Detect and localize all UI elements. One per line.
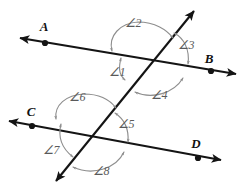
angle-label-1: ∠1	[109, 65, 126, 79]
angle-labels-group: ∠1 ∠2 ∠3 ∠4 ∠5 ∠6 ∠7 ∠8	[43, 16, 195, 178]
angle-label-2: ∠2	[125, 16, 142, 30]
point-label-d: D	[190, 136, 201, 151]
line-ab	[20, 38, 236, 74]
line-cd	[9, 121, 221, 160]
angle-label-4: ∠4	[151, 88, 168, 102]
angle-label-3: ∠3	[178, 38, 195, 52]
point-label-a: A	[39, 19, 49, 34]
point-label-c: C	[27, 104, 36, 119]
point-a-dot	[42, 40, 48, 46]
angle-label-7: ∠7	[43, 143, 61, 157]
angle-6-arc	[56, 94, 116, 119]
point-label-b: B	[204, 51, 214, 66]
geometry-figure: A B C D ∠1 ∠2 ∠3 ∠4 ∠5 ∠6 ∠7 ∠8	[0, 0, 239, 186]
point-d-dot	[195, 155, 201, 161]
angle-label-6: ∠6	[69, 90, 86, 104]
angle-label-5: ∠5	[118, 117, 135, 131]
point-b-dot	[208, 68, 214, 74]
angle-label-8: ∠8	[93, 164, 110, 178]
geometry-canvas: A B C D ∠1 ∠2 ∠3 ∠4 ∠5 ∠6 ∠7 ∠8	[0, 0, 239, 186]
point-c-dot	[29, 123, 35, 129]
angle-7-arc	[60, 124, 73, 157]
